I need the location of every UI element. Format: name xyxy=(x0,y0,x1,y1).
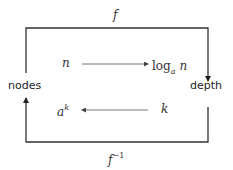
log-base: a xyxy=(171,67,176,76)
forward-bracket xyxy=(26,28,208,81)
inverse-source-k: k xyxy=(161,103,168,115)
node-nodes: nodes xyxy=(8,80,41,91)
diagram-canvas: f nodes depth n loga n ak k f−1 xyxy=(0,0,233,170)
function-label-f: f xyxy=(113,9,117,21)
power-exponent: k xyxy=(64,103,69,112)
forward-source-n: n xyxy=(62,57,70,69)
node-depth: depth xyxy=(190,80,222,91)
function-label-f-inverse: f−1 xyxy=(108,151,124,167)
log-arg: n xyxy=(180,59,188,73)
inverse-bracket xyxy=(26,98,208,142)
log-text: log xyxy=(152,59,171,73)
f-inverse-exponent: −1 xyxy=(112,151,124,160)
forward-target-log: loga n xyxy=(152,57,187,73)
inverse-target-power: ak xyxy=(57,103,69,119)
